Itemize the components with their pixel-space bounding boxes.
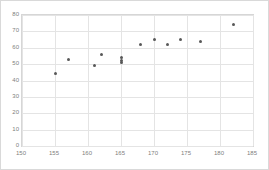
- y-tick-label: 70: [3, 27, 19, 33]
- y-tick-label: 10: [3, 126, 19, 132]
- y-tick-label: 60: [3, 44, 19, 50]
- x-tick-label: 170: [141, 150, 165, 156]
- x-tick-label: 175: [174, 150, 198, 156]
- data-point: [139, 43, 142, 46]
- x-tick-label: 155: [42, 150, 66, 156]
- data-point: [153, 38, 156, 41]
- data-point: [100, 53, 103, 56]
- gridline-horizontal: [22, 130, 253, 131]
- x-tick-label: 160: [75, 150, 99, 156]
- y-axis-tick-labels: 01020304050607080: [1, 14, 19, 147]
- gridline-vertical: [187, 15, 188, 146]
- gridline-vertical: [22, 15, 23, 146]
- gridline-horizontal: [22, 64, 253, 65]
- data-point: [232, 23, 235, 26]
- gridline-horizontal: [22, 81, 253, 82]
- y-tick-label: 30: [3, 93, 19, 99]
- x-tick-label: 165: [108, 150, 132, 156]
- x-tick-label: 180: [207, 150, 231, 156]
- y-tick-label: 0: [3, 142, 19, 148]
- y-tick-label: 80: [3, 11, 19, 17]
- gridline-horizontal: [22, 31, 253, 32]
- data-point: [93, 64, 96, 67]
- data-point: [120, 56, 123, 59]
- data-point: [54, 72, 57, 75]
- gridline-horizontal: [22, 97, 253, 98]
- gridline-vertical: [253, 15, 254, 146]
- plot-area: [21, 14, 254, 147]
- data-point: [199, 40, 202, 43]
- x-axis-tick-labels: 150155160165170175180185: [21, 150, 254, 162]
- gridline-horizontal: [22, 113, 253, 114]
- gridline-vertical: [121, 15, 122, 146]
- y-tick-label: 50: [3, 60, 19, 66]
- gridline-vertical: [154, 15, 155, 146]
- x-tick-label: 150: [9, 150, 33, 156]
- gridline-horizontal: [22, 146, 253, 147]
- gridline-vertical: [88, 15, 89, 146]
- gridline-vertical: [220, 15, 221, 146]
- gridline-horizontal: [22, 48, 253, 49]
- data-point: [179, 38, 182, 41]
- y-tick-label: 40: [3, 77, 19, 83]
- chart-container: 01020304050607080 1501551601651701751801…: [0, 0, 269, 170]
- y-tick-label: 20: [3, 109, 19, 115]
- data-point: [166, 43, 169, 46]
- gridline-vertical: [55, 15, 56, 146]
- data-point: [67, 58, 70, 61]
- gridline-horizontal: [22, 15, 253, 16]
- x-tick-label: 185: [240, 150, 264, 156]
